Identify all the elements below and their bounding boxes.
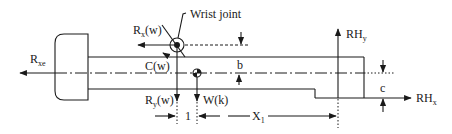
c-w-label: C(w) xyxy=(145,59,170,73)
wrist-joint-diagonal xyxy=(162,25,185,57)
rhx-label: RHx xyxy=(416,91,437,107)
dim-x1-label: X1 xyxy=(252,109,265,125)
b-label: b xyxy=(237,58,243,72)
rxe-label: Rxe xyxy=(30,52,46,68)
rhy-label: RHy xyxy=(346,27,367,43)
wrist-joint-label: Wrist joint xyxy=(190,7,242,21)
wrist-joint-leader xyxy=(178,13,186,38)
w-k-label: W(k) xyxy=(203,93,228,107)
end-block xyxy=(55,34,88,100)
rx-w-label: Rx(w) xyxy=(133,23,162,39)
dim-1-label: 1 xyxy=(185,109,191,123)
ry-w-label: Ry(w) xyxy=(145,93,174,109)
c-label: c xyxy=(380,81,385,95)
c-w-arrow xyxy=(163,53,168,56)
wrist-free-body-diagram: Wrist joint Rx(w) Rxe C(w) b Ry(w) W(k) … xyxy=(0,0,452,134)
